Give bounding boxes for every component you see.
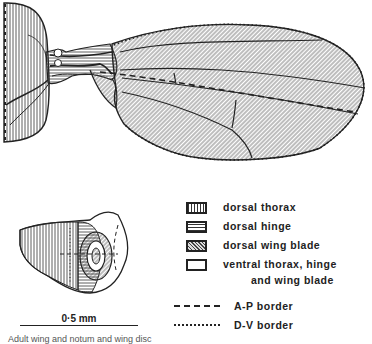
legend-label-line2: and wing blade [223, 272, 337, 288]
scale-bar-label: 0·5 mm [20, 313, 138, 324]
dorsal-hinge-region [46, 44, 117, 108]
legend-label: D-V border [234, 319, 293, 331]
wing-disc-drawing [20, 212, 128, 293]
horizontal-hatch-swatch-icon [186, 221, 207, 233]
legend: dorsal thorax dorsal hinge dorsal wing b… [186, 201, 372, 294]
legend-label-line1: ventral thorax, hinge [223, 256, 337, 272]
figure-caption: Adult wing and notum and wing disc [8, 334, 152, 344]
vertical-hatch-swatch-icon [186, 202, 207, 214]
diagonal-hatch-swatch-icon [186, 240, 207, 252]
legend-item-dv-border: D-V border [174, 319, 293, 331]
legend-item-dorsal-thorax: dorsal thorax [186, 201, 372, 220]
blank-swatch-icon [186, 259, 207, 271]
legend-label: dorsal hinge [223, 220, 291, 232]
dorsal-wing-blade-region [100, 24, 365, 159]
scale-bar-line [20, 325, 138, 326]
legend-label: dorsal thorax [223, 201, 296, 213]
dashed-line-icon [174, 305, 220, 307]
legend-item-ap-border: A-P border [174, 300, 293, 312]
dotted-line-icon [174, 324, 220, 326]
legend-label: ventral thorax, hinge and wing blade [223, 256, 337, 288]
legend-item-dorsal-hinge: dorsal hinge [186, 220, 372, 239]
legend-item-ventral: ventral thorax, hinge and wing blade [186, 258, 372, 294]
scale-bar: 0·5 mm [20, 313, 138, 326]
legend-label: A-P border [234, 300, 293, 312]
dorsal-thorax-region [4, 3, 50, 142]
legend-label: dorsal wing blade [223, 239, 320, 251]
